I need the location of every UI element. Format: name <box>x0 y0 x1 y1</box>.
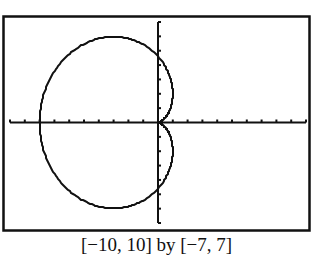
calculator-graph <box>0 0 313 232</box>
window-caption: [−10, 10] by [−7, 7] <box>0 234 313 256</box>
